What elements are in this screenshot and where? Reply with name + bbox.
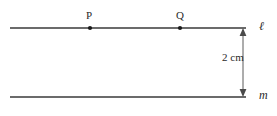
point-label-p: P [86,10,92,21]
point-marker-p [88,26,92,30]
arrow-up-icon [240,28,247,36]
dimension-label: 2 cm [222,52,244,63]
line-label-m: m [259,89,268,101]
point-label-q: Q [176,10,184,21]
line-label-l: ℓ [259,20,264,32]
point-marker-q [178,26,182,30]
geometry-figure: P Q ℓ m 2 cm [0,0,277,116]
arrow-down-icon [240,89,247,97]
